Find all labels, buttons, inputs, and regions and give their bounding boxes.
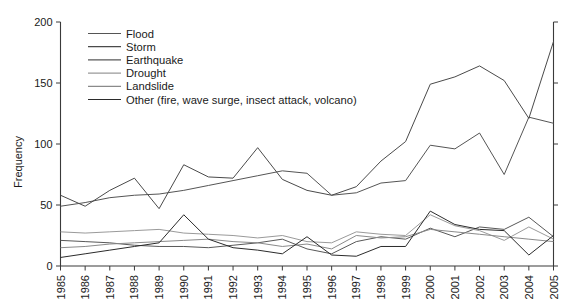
x-axis-ticks: 1985198619871988198919901991199219931994… bbox=[55, 266, 560, 299]
x-tick-label-1987: 1987 bbox=[104, 275, 116, 299]
y-tick-label-150: 150 bbox=[34, 77, 52, 89]
x-tick-label-2002: 2002 bbox=[474, 275, 486, 299]
y-tick-label-50: 50 bbox=[40, 199, 52, 211]
x-tick-label-2004: 2004 bbox=[523, 275, 535, 299]
x-tick-label-1989: 1989 bbox=[153, 275, 165, 299]
series-line-flood bbox=[61, 117, 554, 206]
x-tick-label-1990: 1990 bbox=[178, 275, 190, 299]
legend-label-drought: Drought bbox=[126, 67, 167, 79]
x-tick-label-1998: 1998 bbox=[375, 275, 387, 299]
y-tick-label-200: 200 bbox=[34, 16, 52, 28]
legend-label-storm: Storm bbox=[126, 41, 156, 53]
x-tick-label-1996: 1996 bbox=[326, 275, 338, 299]
x-tick-label-2001: 2001 bbox=[449, 275, 461, 299]
chart-figure: 050100150200 198519861987198819891990199… bbox=[0, 0, 577, 308]
legend-label-other: Other (fire, wave surge, insect attack, … bbox=[126, 94, 357, 106]
x-tick-label-1988: 1988 bbox=[128, 275, 140, 299]
x-tick-label-1999: 1999 bbox=[400, 275, 412, 299]
x-tick-label-1991: 1991 bbox=[202, 275, 214, 299]
legend-label-earthquake: Earthquake bbox=[126, 54, 183, 66]
series-line-drought bbox=[61, 215, 554, 243]
x-tick-label-1997: 1997 bbox=[350, 275, 362, 299]
chart-legend: FloodStormEarthquakeDroughtLandslideOthe… bbox=[88, 28, 357, 106]
x-tick-label-1995: 1995 bbox=[301, 275, 313, 299]
x-tick-label-1994: 1994 bbox=[276, 275, 288, 299]
y-tick-label-0: 0 bbox=[46, 260, 52, 272]
series-line-earthquake bbox=[61, 217, 554, 254]
x-tick-label-1985: 1985 bbox=[55, 275, 67, 299]
legend-label-flood: Flood bbox=[126, 28, 154, 40]
y-axis-ticks: 050100150200 bbox=[34, 16, 60, 272]
legend-label-landslide: Landslide bbox=[126, 80, 174, 92]
x-tick-label-1992: 1992 bbox=[227, 275, 239, 299]
x-tick-label-2003: 2003 bbox=[498, 275, 510, 299]
x-axis: 1985198619871988198919901991199219931994… bbox=[55, 266, 560, 299]
x-tick-label-1986: 1986 bbox=[79, 275, 91, 299]
y-axis-right bbox=[554, 22, 559, 266]
x-tick-label-1993: 1993 bbox=[252, 275, 264, 299]
y-axis: 050100150200 bbox=[34, 16, 60, 272]
x-tick-label-2000: 2000 bbox=[424, 275, 436, 299]
y-tick-label-100: 100 bbox=[34, 138, 52, 150]
line-chart: 050100150200 198519861987198819891990199… bbox=[0, 0, 577, 308]
y-axis-right-ticks bbox=[554, 22, 559, 266]
y-axis-title: Frequency bbox=[12, 136, 24, 188]
x-tick-label-2005: 2005 bbox=[548, 275, 560, 299]
